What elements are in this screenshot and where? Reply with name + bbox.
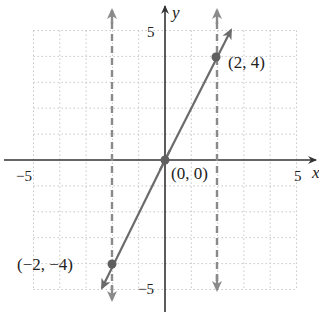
x-max-tick-label: 5 — [294, 168, 302, 184]
x-axis-label: x — [311, 163, 319, 182]
point-origin — [161, 156, 170, 165]
point-2-4 — [212, 53, 221, 62]
y-axis-label: y — [170, 3, 180, 22]
point-label-neg2-neg4: (−2, −4) — [17, 255, 73, 274]
point-neg2-neg4 — [108, 260, 117, 269]
line-y-2x — [160, 30, 231, 170]
point-label-2-4: (2, 4) — [228, 53, 265, 72]
coordinate-plane: y x 5 −5 −5 5 (2, 4) (0, 0) (−2, −4) — [0, 0, 319, 314]
x-min-tick-label: −5 — [16, 168, 32, 184]
y-max-tick-label: 5 — [147, 24, 155, 40]
point-label-origin: (0, 0) — [171, 164, 208, 183]
y-min-tick-label: −5 — [138, 281, 154, 297]
